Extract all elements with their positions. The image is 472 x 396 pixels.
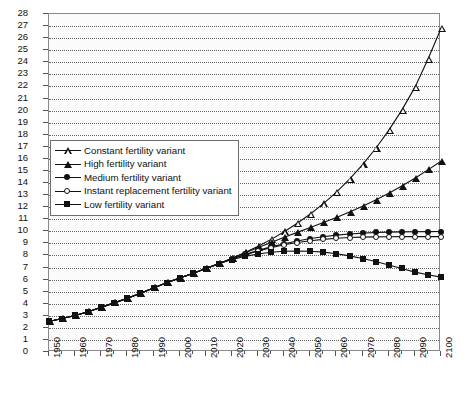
x-tick-mark-major	[126, 351, 127, 356]
y-tick-label: 2	[6, 322, 28, 332]
y-tick-label: 27	[6, 20, 28, 30]
y-tick-label: 20	[6, 105, 28, 115]
data-point-marker	[307, 211, 315, 218]
legend-label: Constant fertility variant	[81, 146, 185, 156]
data-point-marker	[281, 234, 289, 241]
y-tick-mark	[43, 122, 48, 123]
y-tick-label: 11	[6, 213, 28, 223]
y-tick-mark	[43, 315, 48, 316]
y-tick-label: 1	[6, 334, 28, 344]
data-point-marker	[360, 234, 366, 240]
data-point-marker	[294, 248, 300, 254]
legend-marker-icon	[55, 171, 81, 184]
y-tick-mark	[43, 61, 48, 62]
data-point-marker	[124, 295, 130, 301]
population-projection-chart: Constant fertility variantHigh fertility…	[0, 0, 472, 396]
data-point-marker	[386, 262, 392, 268]
x-tick-label: 2060	[339, 337, 349, 358]
data-point-marker	[386, 127, 394, 134]
legend-marker-icon	[55, 185, 81, 198]
y-tick-mark	[43, 327, 48, 328]
x-tick-mark-major	[283, 351, 284, 356]
y-tick-mark	[43, 230, 48, 231]
data-point-marker	[425, 272, 431, 278]
y-tick-label: 0	[6, 346, 28, 356]
legend-label: Low fertility variant	[81, 200, 164, 210]
data-point-marker	[399, 265, 405, 271]
x-tick-label: 2020	[235, 337, 245, 358]
y-tick-mark	[43, 267, 48, 268]
data-point-marker	[268, 249, 274, 255]
y-tick-label: 4	[6, 298, 28, 308]
x-tick-label: 2090	[418, 337, 428, 358]
data-point-marker	[281, 242, 287, 248]
y-tick-mark	[43, 254, 48, 255]
data-point-marker	[98, 304, 104, 310]
data-point-marker	[347, 176, 355, 183]
data-point-marker	[46, 318, 52, 324]
x-tick-label: 1980	[130, 337, 140, 358]
data-point-marker	[59, 316, 65, 322]
y-tick-mark	[43, 218, 48, 219]
data-point-marker	[320, 219, 328, 226]
x-tick-label: 2100	[444, 337, 454, 358]
x-tick-label: 2040	[287, 337, 297, 358]
data-point-marker	[386, 190, 394, 197]
data-point-marker	[137, 290, 143, 296]
data-point-marker	[386, 234, 392, 240]
y-tick-label: 23	[6, 68, 28, 78]
y-tick-mark	[43, 85, 48, 86]
y-tick-label: 12	[6, 201, 28, 211]
x-tick-label: 2030	[261, 337, 271, 358]
x-tick-mark-major	[309, 351, 310, 356]
y-tick-mark	[43, 303, 48, 304]
legend: Constant fertility variantHigh fertility…	[50, 140, 239, 216]
legend-item: Medium fertility variant	[55, 171, 232, 185]
data-point-marker	[373, 197, 381, 204]
x-tick-label: 1990	[157, 337, 167, 358]
data-point-marker	[333, 251, 339, 257]
data-point-marker	[360, 256, 366, 262]
data-point-marker	[320, 200, 328, 207]
legend-label: High fertility variant	[81, 159, 166, 169]
x-tick-mark-major	[362, 351, 363, 356]
x-tick-label: 2070	[366, 337, 376, 358]
y-tick-mark	[43, 110, 48, 111]
data-point-marker	[72, 312, 78, 318]
x-tick-mark-major	[48, 351, 49, 356]
x-tick-label: 1960	[78, 337, 88, 358]
y-tick-mark	[43, 194, 48, 195]
data-point-marker	[399, 183, 407, 190]
legend-label: Medium fertility variant	[81, 173, 181, 183]
x-tick-mark-major	[440, 351, 441, 356]
y-tick-mark	[43, 170, 48, 171]
y-tick-label: 16	[6, 153, 28, 163]
data-point-marker	[412, 234, 418, 240]
y-tick-label: 22	[6, 80, 28, 90]
data-point-marker	[360, 203, 368, 210]
y-tick-label: 8	[6, 249, 28, 259]
y-tick-mark	[43, 242, 48, 243]
legend-item: High fertility variant	[55, 158, 232, 172]
x-tick-mark-major	[414, 351, 415, 356]
data-point-marker	[438, 274, 444, 280]
data-point-marker	[373, 145, 381, 152]
y-tick-label: 10	[6, 225, 28, 235]
data-point-marker	[294, 229, 302, 236]
series-line	[49, 232, 441, 322]
data-point-marker	[425, 56, 433, 63]
data-point-marker	[294, 220, 302, 227]
x-tick-label: 1950	[52, 337, 62, 358]
data-point-marker	[177, 275, 183, 281]
data-point-marker	[360, 161, 368, 168]
x-tick-label: 2050	[313, 337, 323, 358]
data-point-marker	[111, 300, 117, 306]
data-point-marker	[399, 234, 405, 240]
x-tick-mark-major	[153, 351, 154, 356]
y-tick-label: 14	[6, 177, 28, 187]
data-point-marker	[412, 269, 418, 275]
data-point-marker	[164, 280, 170, 286]
x-tick-mark-major	[179, 351, 180, 356]
x-tick-label: 2000	[183, 337, 193, 358]
data-point-marker	[242, 253, 248, 259]
